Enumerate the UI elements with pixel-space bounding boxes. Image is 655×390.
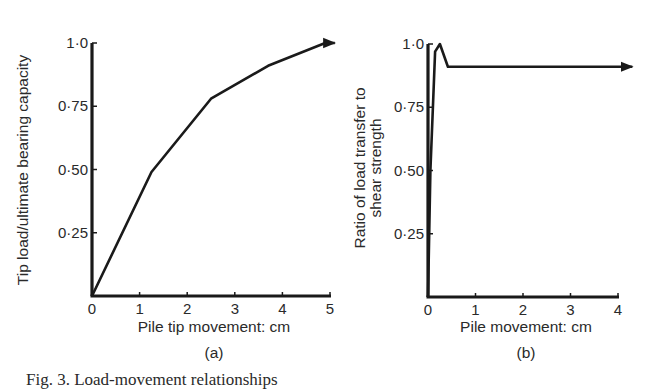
- panel-label: (b): [517, 344, 536, 361]
- data-line: [428, 44, 632, 297]
- panel-a: 0123450·250·500·751·0Pile tip movement: …: [14, 34, 335, 361]
- y-axis-title: Ratio of load transfer to: [351, 87, 368, 248]
- x-tick-label: 2: [183, 300, 191, 317]
- x-tick-label: 2: [519, 301, 527, 318]
- y-tick-label: 0·50: [58, 161, 88, 178]
- y-axis-title: Tip load/ultimate bearing capacity: [14, 55, 31, 286]
- x-tick-label: 3: [566, 301, 574, 318]
- x-tick-label: 0: [424, 301, 432, 318]
- figure-caption: Fig. 3. Load-movement relationships: [26, 370, 278, 390]
- panel-b: 012340·250·500·751·0Pile movement: cmRat…: [351, 35, 632, 361]
- x-tick-label: 1: [471, 301, 479, 318]
- x-tick-label: 3: [231, 300, 239, 317]
- y-tick-label: 0·75: [58, 97, 88, 114]
- y-axis-title: shear strength: [367, 118, 384, 217]
- y-tick-label: 0·75: [394, 98, 424, 115]
- y-tick-label: 1·0: [402, 35, 424, 52]
- y-tick-label: 0·25: [394, 225, 424, 242]
- y-tick-label: 0·25: [58, 224, 88, 241]
- data-line: [92, 43, 335, 296]
- x-axis-title: Pile movement: cm: [460, 318, 592, 335]
- x-tick-label: 4: [614, 301, 622, 318]
- x-tick-label: 1: [135, 300, 143, 317]
- x-tick-label: 0: [88, 300, 96, 317]
- panel-label: (a): [205, 344, 224, 361]
- x-axis-title: Pile tip movement: cm: [138, 318, 290, 335]
- y-tick-label: 1·0: [66, 34, 88, 51]
- y-tick-label: 0·50: [394, 162, 424, 179]
- x-tick-label: 4: [278, 300, 286, 317]
- x-tick-label: 5: [326, 300, 334, 317]
